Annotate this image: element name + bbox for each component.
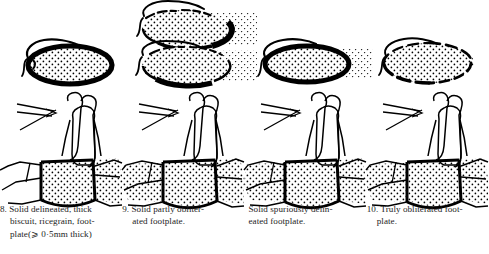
caption-row: 8. Solid delineated, thick biscuit, rice… <box>0 0 489 254</box>
caption-8-line-2: biscuit, ricegrain, foot- <box>0 215 122 227</box>
figure-column-10: 10. Truly obliterated foot- plate. <box>367 0 489 254</box>
caption-10-line-1: 10. Truly obliterated foot- <box>367 203 489 215</box>
figure-column-spurious: Solid spuriously delin- eated footplate. <box>245 0 367 254</box>
caption-9-line-1: 9. Solid partly obliter- <box>122 203 244 215</box>
caption-10: 10. Truly obliterated foot- plate. <box>367 203 489 228</box>
figure-plate: 8. Solid delineated, thick biscuit, rice… <box>0 0 489 254</box>
caption-10-line-2: plate. <box>367 215 489 227</box>
caption-8-line-3: plate(⩾ 0·5mm thick) <box>0 228 122 240</box>
caption-9: 9. Solid partly obliter- ated footplate. <box>122 203 244 228</box>
caption-spurious-line-2: eated footplate. <box>249 215 371 227</box>
caption-spurious: Solid spuriously delin- eated footplate. <box>245 203 371 228</box>
caption-8: 8. Solid delineated, thick biscuit, rice… <box>0 203 122 240</box>
figure-column-8: 8. Solid delineated, thick biscuit, rice… <box>0 0 122 254</box>
caption-8-line-1: 8. Solid delineated, thick <box>0 203 122 215</box>
figure-column-9: 9. Solid partly obliter- ated footplate. <box>122 0 244 254</box>
caption-spurious-line-1: Solid spuriously delin- <box>249 203 371 215</box>
caption-9-line-2: ated footplate. <box>122 215 244 227</box>
